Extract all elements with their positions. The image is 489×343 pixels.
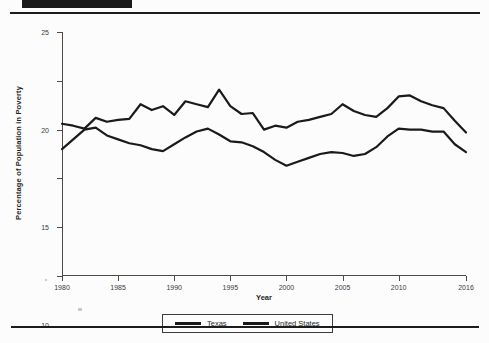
x-tick [174,276,175,281]
y-tick-label: 25 [41,29,49,36]
header-divider [10,12,480,14]
x-axis-title: Year [256,293,272,302]
x-tick [118,276,119,281]
legend-line-swatch-texas [175,322,201,325]
x-tick [466,276,467,281]
x-tick-label: 2010 [391,284,407,291]
chart-page: Percentage of Population in Poverty Year… [0,0,489,343]
x-tick-label: 1990 [166,284,182,291]
chart-legend: Texas United States [162,314,333,333]
x-tick [286,276,287,281]
x-tick-label: 2000 [279,284,295,291]
scan-speck-2 [45,279,47,281]
header-redaction-bar [22,0,132,8]
footer-divider [11,326,479,328]
x-tick [62,276,63,281]
x-tick [399,276,400,281]
x-tick-label: 1985 [110,284,126,291]
y-tick-label: 20 [41,126,49,133]
y-tick-label: 15 [41,224,49,231]
x-tick-label: 2016 [458,284,474,291]
series-line-united-states [62,128,466,166]
series-line-texas [62,90,466,133]
x-tick-label: 2005 [335,284,351,291]
y-axis-title: Percentage of Population in Poverty [14,86,23,220]
x-tick-label: 1995 [223,284,239,291]
x-tick-label: 1980 [54,284,70,291]
x-tick [343,276,344,281]
plot-area: 0510152025 19801985199019952000200520102… [62,32,466,276]
x-tick [230,276,231,281]
series-lines [62,32,466,276]
legend-line-swatch-united-states [243,322,269,325]
scan-speck [78,308,82,311]
poverty-line-chart: Percentage of Population in Poverty Year… [0,18,489,323]
